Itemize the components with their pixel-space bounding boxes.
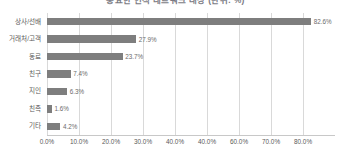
bar[interactable] (47, 18, 311, 26)
bar-value-label: 27.9% (139, 36, 157, 43)
bar-value-label: 6.3% (70, 88, 84, 95)
category-axis-line (47, 135, 335, 136)
value-axis-tick-label: 80.0% (294, 137, 312, 146)
bar-value-label: 23.7% (125, 53, 143, 60)
bar-value-label: 4.2% (63, 123, 77, 130)
bar-value-label: 82.6% (314, 18, 332, 25)
bar[interactable] (47, 70, 71, 78)
plot-area: 82.6%27.9%23.7%7.4%6.3%1.6%4.2% (47, 13, 335, 135)
value-axis-tick-label: 40.0% (166, 137, 184, 146)
bar[interactable] (47, 123, 60, 131)
category-label: 지인 (29, 87, 41, 95)
category-label: 기타 (29, 122, 41, 130)
category-label: 거래처/고객 (9, 35, 41, 43)
bar-value-label: 1.6% (55, 105, 69, 112)
bar-row: 6.3% (47, 83, 335, 100)
bar-row: 4.2% (47, 118, 335, 135)
bar-row: 27.9% (47, 30, 335, 47)
category-label: 친구 (29, 70, 41, 78)
value-axis-tick-label: 20.0% (102, 137, 120, 146)
bar-value-label: 7.4% (73, 70, 87, 77)
bar-row: 23.7% (47, 48, 335, 65)
value-axis-labels: 0.0%10.0%20.0%30.0%40.0%40.0%60.0%70.0%8… (47, 137, 335, 149)
bar-row: 1.6% (47, 100, 335, 117)
category-label: 동료 (29, 53, 41, 61)
category-axis-labels: 상사/선배거래처/고객동료친구지인친족기타 (0, 13, 45, 135)
value-axis-tick-label: 40.0% (198, 137, 216, 146)
page-title: 중요한 인적 네트워크 대상 (단위: %) (0, 0, 351, 5)
value-axis-tick-label: 60.0% (230, 137, 248, 146)
value-axis-tick-label: 0.0% (40, 137, 55, 146)
category-label: 상사/선배 (15, 18, 41, 26)
bar[interactable] (47, 88, 67, 96)
bar[interactable] (47, 53, 123, 61)
value-axis-tick-label: 30.0% (134, 137, 152, 146)
bar-chart: 중요한 인적 네트워크 대상 (단위: %) 상사/선배거래처/고객동료친구지인… (0, 0, 351, 152)
bar[interactable] (47, 35, 136, 43)
value-axis-tick-label: 70.0% (262, 137, 280, 146)
bar-row: 7.4% (47, 65, 335, 82)
bar[interactable] (47, 105, 52, 113)
category-label: 친족 (29, 105, 41, 113)
value-axis-tick-label: 10.0% (70, 137, 88, 146)
bar-row: 82.6% (47, 13, 335, 30)
